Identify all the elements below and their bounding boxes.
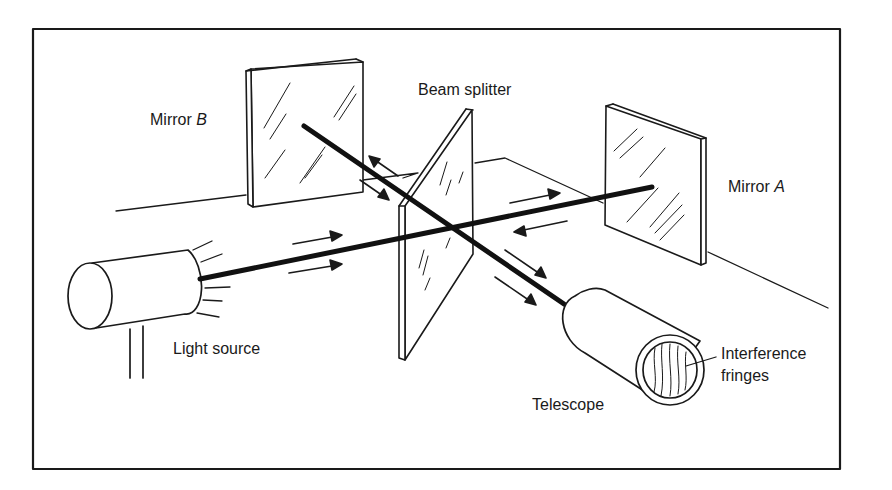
telescope bbox=[563, 288, 716, 405]
label-mirror-b-letter: B bbox=[196, 111, 207, 128]
mirror-b bbox=[246, 59, 363, 207]
label-beam-splitter: Beam splitter bbox=[418, 80, 511, 100]
interferometer-diagram bbox=[0, 0, 892, 490]
label-mirror-a-text: Mirror bbox=[728, 178, 774, 195]
label-mirror-a: Mirror A bbox=[728, 177, 785, 197]
label-telescope: Telescope bbox=[532, 395, 604, 415]
label-interference-line2: fringes bbox=[721, 365, 806, 387]
label-mirror-a-letter: A bbox=[774, 178, 785, 195]
mirror-a bbox=[605, 104, 706, 265]
label-interference-fringes: Interference fringes bbox=[721, 343, 806, 387]
label-mirror-b-text: Mirror bbox=[150, 111, 196, 128]
label-light-source: Light source bbox=[173, 339, 260, 359]
label-mirror-b: Mirror B bbox=[150, 110, 207, 130]
label-interference-line1: Interference bbox=[721, 343, 806, 365]
